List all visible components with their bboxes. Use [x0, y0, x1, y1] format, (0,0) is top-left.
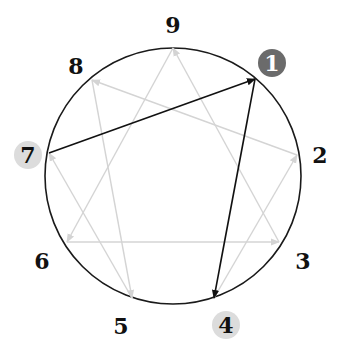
- active-arrows: [49, 79, 255, 298]
- arrow-8-to-5: [92, 80, 132, 298]
- inactive-arrows: [49, 48, 297, 298]
- point-label-2: 2: [312, 142, 327, 168]
- label-badges: [14, 49, 286, 339]
- point-label-3: 3: [295, 248, 310, 274]
- arrow-4-to-2: [214, 155, 297, 298]
- point-label-8: 8: [68, 53, 83, 79]
- arrow-2-to-8: [92, 80, 297, 155]
- arrow-3-to-9: [173, 48, 279, 242]
- arrow-5-to-7: [49, 153, 132, 298]
- point-label-5: 5: [113, 313, 128, 339]
- point-label-9: 9: [165, 12, 180, 38]
- point-label-4: 4: [218, 312, 233, 338]
- arrow-1-to-4: [214, 79, 255, 298]
- point-label-6: 6: [34, 248, 49, 274]
- enneagram-circle: [45, 48, 301, 304]
- enneagram-diagram: 123456789: [0, 0, 342, 359]
- point-label-1: 1: [264, 50, 279, 76]
- point-label-7: 7: [20, 142, 35, 168]
